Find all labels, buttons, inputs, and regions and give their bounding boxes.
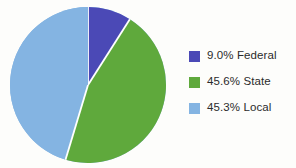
pie-slice-group (10, 7, 166, 163)
pie-chart-figure: 9.0% Federal 45.6% State 45.3% Local (0, 0, 296, 168)
legend-item-state[interactable]: 45.6% State (189, 69, 293, 95)
chart-legend: 9.0% Federal 45.6% State 45.3% Local (189, 43, 293, 121)
legend-label-local: 45.3% Local (207, 102, 271, 114)
legend-swatch-local (189, 103, 200, 114)
legend-label-state: 45.6% State (207, 76, 271, 88)
pie-chart-svg (9, 6, 167, 164)
legend-item-federal[interactable]: 9.0% Federal (189, 43, 293, 69)
legend-label-federal: 9.0% Federal (207, 50, 277, 62)
legend-swatch-federal (189, 51, 200, 62)
legend-swatch-state (189, 77, 200, 88)
legend-item-local[interactable]: 45.3% Local (189, 95, 293, 121)
pie-chart-plot-area (9, 6, 167, 164)
